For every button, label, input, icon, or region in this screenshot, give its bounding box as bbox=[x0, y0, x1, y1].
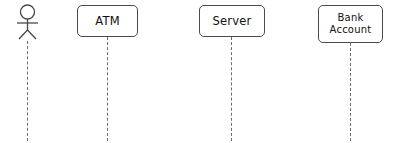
lifeline-actor bbox=[27, 41, 28, 141]
stick-figure-actor-icon bbox=[13, 4, 42, 40]
participant-box-server[interactable]: Server bbox=[199, 5, 265, 37]
lifeline-bank-account bbox=[350, 43, 351, 141]
lifeline-atm bbox=[107, 37, 108, 141]
lifeline-server bbox=[231, 37, 232, 141]
participant-box-atm[interactable]: ATM bbox=[77, 5, 138, 37]
sequence-diagram-canvas: ATM Server Bank Account bbox=[0, 0, 397, 143]
participant-box-bank-account[interactable]: Bank Account bbox=[318, 5, 383, 43]
